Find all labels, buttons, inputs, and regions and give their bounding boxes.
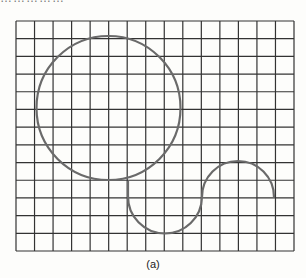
figure-caption: (a) [0,258,306,270]
grid-figure [0,0,306,278]
